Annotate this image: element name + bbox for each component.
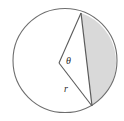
geometry-figure: θ r [0,0,124,121]
circle-segment-diagram: θ r [0,0,124,121]
radius-r-label: r [64,83,68,94]
angle-theta-label: θ [66,55,71,66]
